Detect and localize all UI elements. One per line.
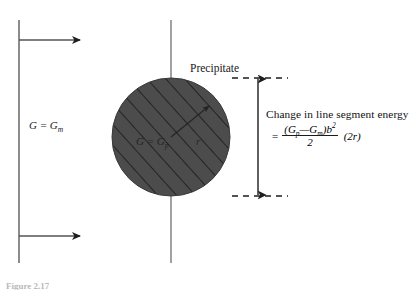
- matrix-modulus-label: G = Gm: [29, 119, 63, 132]
- precipitate-modulus-subscript: p: [165, 141, 169, 150]
- precipitate-modulus-label: G = Gp: [136, 135, 169, 148]
- figure-caption: Figure 2.17: [6, 281, 49, 290]
- matrix-modulus-subscript: m: [58, 125, 63, 134]
- radius-label: r: [196, 136, 200, 148]
- formula-fraction: (Gp—Gm)b2 2: [282, 123, 337, 148]
- formula-equals: =: [272, 130, 278, 142]
- formula-denominator: 2: [307, 136, 313, 148]
- numerator-exponent: 2: [332, 121, 336, 130]
- annotation-block: Change in line segment energy = (Gp—Gm)b…: [266, 108, 412, 148]
- energy-formula: = (Gp—Gm)b2 2 (2r): [266, 123, 412, 148]
- formula-tail: (2r): [344, 130, 361, 142]
- annotation-title: Change in line segment energy: [266, 108, 412, 120]
- figure-container: G = Gm Precipitate G = Gp r Change in li…: [0, 0, 413, 292]
- formula-numerator: (Gp—Gm)b2: [282, 123, 337, 135]
- precipitate-label: Precipitate: [190, 62, 239, 75]
